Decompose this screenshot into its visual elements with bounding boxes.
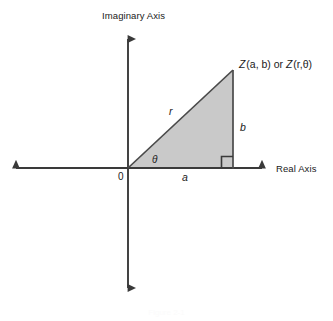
point-z-symbol: Z xyxy=(239,58,245,70)
figure-caption: Figure 2-1 xyxy=(0,308,333,317)
origin-label: 0 xyxy=(118,172,124,182)
adjacent-side-a-label: a xyxy=(182,172,188,183)
angle-theta-label: θ xyxy=(152,155,157,165)
point-z-label: Z (a, b) or Z (r,θ) xyxy=(239,59,312,70)
real-axis-label: Real Axis xyxy=(276,164,317,174)
point-z-conjunction: or xyxy=(274,58,283,70)
hypotenuse-r-label: r xyxy=(169,106,173,117)
argand-diagram-canvas xyxy=(0,0,333,321)
opposite-side-b-label: b xyxy=(240,122,246,133)
point-z-polar: (r,θ) xyxy=(293,58,312,70)
argand-diagram-figure: Imaginary Axis Real Axis Z (a, b) or Z (… xyxy=(0,0,333,321)
point-z-rectangular: (a, b) xyxy=(246,58,271,70)
imaginary-axis-label: Imaginary Axis xyxy=(102,11,165,21)
point-z-symbol-polar: Z xyxy=(286,58,292,70)
